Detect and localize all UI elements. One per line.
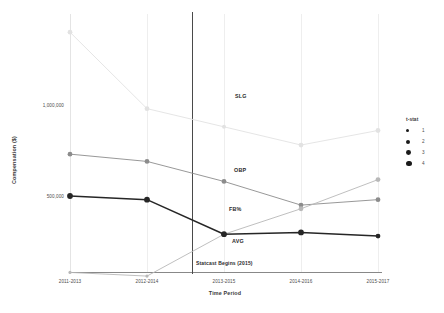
- compensation-line-chart: 1,000,000 500,000 2011-2013 2012-2014 20…: [0, 0, 444, 313]
- legend-dot-icon: [406, 161, 420, 167]
- legend-title: t-stat: [406, 117, 444, 122]
- x-tick-label-0: 2011-2013: [59, 279, 82, 284]
- gridline-2015-2017: [378, 14, 379, 272]
- plot-area: [70, 14, 380, 272]
- legend-dot-icon: [406, 129, 420, 132]
- legend-row-4: 4: [406, 158, 444, 169]
- series-label-avg: AVG: [232, 238, 244, 244]
- y-tick-label: 500,000: [47, 194, 64, 199]
- statcast-annotation-label: Statcast Begins (2015): [196, 260, 253, 266]
- legend-label: 4: [422, 161, 425, 166]
- x-tick-label-4: 2015-2017: [367, 279, 390, 284]
- y-axis-line: [70, 14, 71, 272]
- legend-row-2: 2: [406, 136, 444, 147]
- x-tick-label-2: 2013-2015: [213, 279, 236, 284]
- legend: t-stat 1234: [406, 117, 444, 169]
- legend-dot-icon: [406, 140, 420, 144]
- gridline-2013-2015: [224, 14, 225, 272]
- x-axis-line: [70, 272, 382, 273]
- statcast-reference-line: [192, 12, 193, 274]
- legend-row-3: 3: [406, 147, 444, 158]
- legend-dot-icon: [406, 150, 420, 155]
- gridline-2014-2016: [301, 14, 302, 272]
- y-tick-label: 1,000,000: [43, 103, 64, 108]
- legend-label: 3: [422, 150, 425, 155]
- y-axis-title: Compensation ($): [11, 136, 17, 184]
- x-tick-label-1: 2012-2014: [136, 279, 159, 284]
- legend-label: 2: [422, 139, 425, 144]
- legend-label: 1: [422, 128, 425, 133]
- series-label-fbpct: FB%: [229, 206, 242, 212]
- data-point-fbpct-1: [145, 274, 148, 277]
- x-axis-title: Time Period: [209, 290, 241, 296]
- series-label-slg: SLG: [235, 93, 247, 99]
- series-label-obp: OBP: [234, 167, 246, 173]
- gridline-2012-2014: [147, 14, 148, 272]
- legend-row-1: 1: [406, 125, 444, 136]
- x-tick-label-3: 2014-2016: [290, 279, 313, 284]
